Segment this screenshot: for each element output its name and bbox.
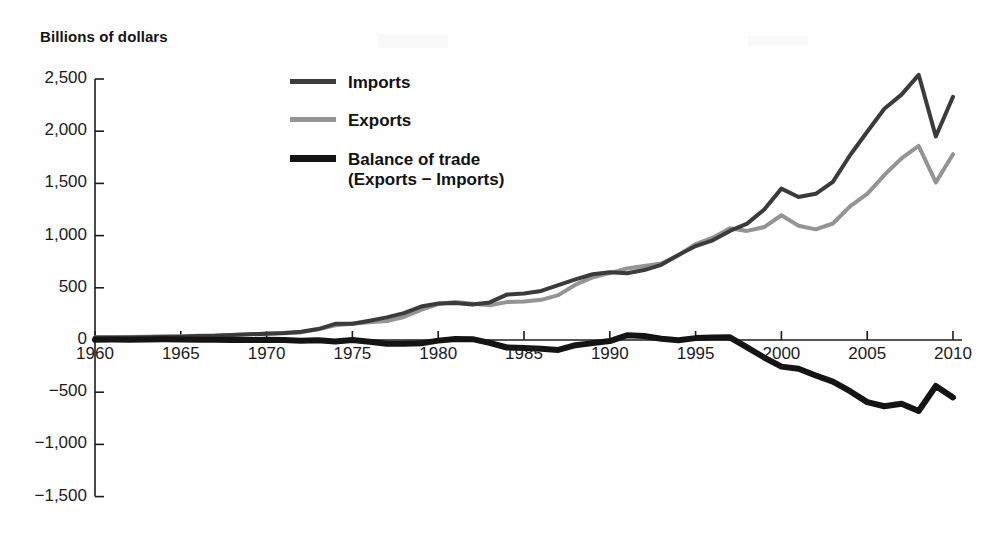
series-line-exports (95, 146, 953, 337)
legend-swatch-balance (290, 155, 336, 162)
x-axis-tick-label: 1960 (65, 344, 125, 364)
x-axis-tick-label: 1995 (666, 344, 726, 364)
legend-label-balance: Balance of trade (348, 149, 504, 170)
legend-sublabel-balance: (Exports − Imports) (348, 170, 504, 190)
y-axis-tick-label: 500 (17, 277, 87, 297)
y-axis-tick-label: 2,500 (17, 68, 87, 88)
legend-label-imports: Imports (348, 72, 410, 93)
series-line-imports (95, 75, 953, 338)
y-axis-tick-label: 1,000 (17, 225, 87, 245)
legend-swatch-exports (290, 117, 336, 122)
legend-label-exports: Exports (348, 110, 411, 131)
legend-swatch-imports (290, 79, 336, 84)
legend-item-balance: Balance of trade (Exports − Imports) (290, 149, 504, 190)
x-axis-tick-label: 1990 (580, 344, 640, 364)
legend-item-imports: Imports (290, 72, 504, 93)
x-axis-tick-label: 1985 (494, 344, 554, 364)
x-axis-tick-label: 1965 (151, 344, 211, 364)
y-axis-tick-label: 2,000 (17, 120, 87, 140)
x-axis-tick-label: 1980 (408, 344, 468, 364)
x-axis-tick-label: 1970 (237, 344, 297, 364)
axes-group (95, 79, 962, 497)
x-axis-tick-label: 2010 (923, 344, 983, 364)
y-axis-tick-label: −1,000 (17, 433, 87, 453)
chart-legend: Imports Exports Balance of trade (Export… (290, 72, 504, 207)
y-axis-tick-label: −1,500 (17, 486, 87, 506)
legend-item-exports: Exports (290, 110, 504, 131)
x-axis-tick-label: 1975 (322, 344, 382, 364)
y-axis-tick-label: 1,500 (17, 172, 87, 192)
trade-chart-figure: Billions of dollars 2,5002,0001,5001,000… (0, 0, 994, 535)
x-axis-tick-label: 2005 (837, 344, 897, 364)
y-axis-tick-label: −500 (17, 381, 87, 401)
x-axis-tick-label: 2000 (751, 344, 811, 364)
